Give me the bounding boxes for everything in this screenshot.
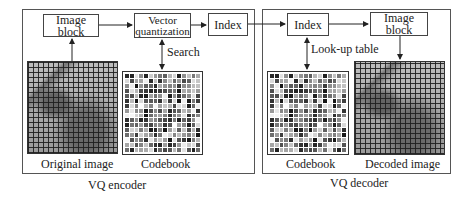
arrows-layer [0, 0, 470, 197]
